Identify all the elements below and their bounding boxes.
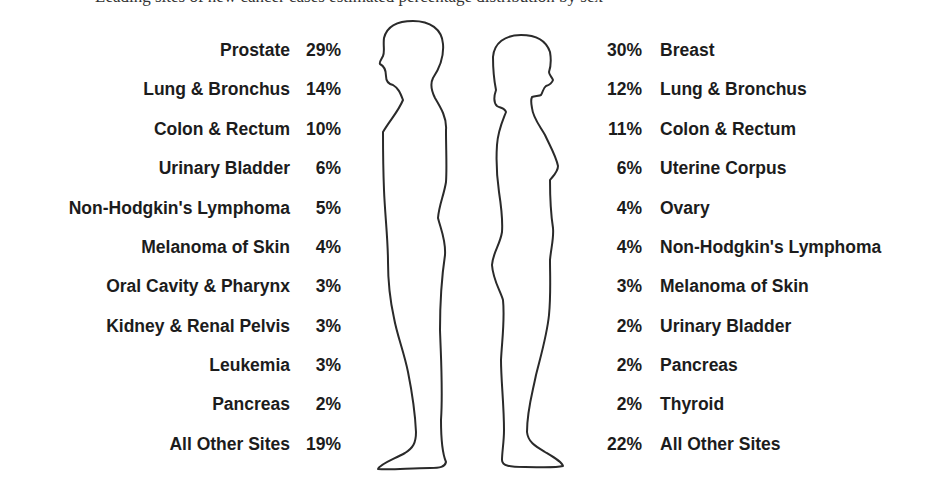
male-site-percent: 29%: [291, 38, 341, 62]
female-site-percent: 2%: [590, 353, 642, 377]
male-site-label: Kidney & Renal Pelvis: [0, 314, 290, 338]
female-site-label: Colon & Rectum: [660, 117, 948, 141]
female-site-label: Ovary: [660, 196, 948, 220]
female-site-label: Uterine Corpus: [660, 156, 948, 180]
male-site-label: Lung & Bronchus: [0, 77, 290, 101]
female-site-label: Urinary Bladder: [660, 314, 948, 338]
female-site-percent: 6%: [590, 156, 642, 180]
male-site-percent: 5%: [291, 196, 341, 220]
female-site-percent: 3%: [590, 274, 642, 298]
female-site-label: Pancreas: [660, 353, 948, 377]
female-site-percent: 2%: [590, 314, 642, 338]
female-site-percent: 2%: [590, 392, 642, 416]
male-site-label: Urinary Bladder: [0, 156, 290, 180]
female-site-percent: 22%: [590, 432, 642, 456]
male-silhouette-icon: [378, 21, 446, 469]
male-site-label: Pancreas: [0, 392, 290, 416]
male-site-label: All Other Sites: [0, 432, 290, 456]
male-site-percent: 2%: [291, 392, 341, 416]
male-site-percent: 3%: [291, 314, 341, 338]
female-site-label: All Other Sites: [660, 432, 948, 456]
female-site-percent: 4%: [590, 235, 642, 259]
male-site-label: Prostate: [0, 38, 290, 62]
female-site-percent: 12%: [590, 77, 642, 101]
female-site-percent: 4%: [590, 196, 642, 220]
female-silhouette-icon: [492, 35, 563, 467]
male-site-percent: 6%: [291, 156, 341, 180]
female-site-percent: 30%: [590, 38, 642, 62]
male-site-label: Non-Hodgkin's Lymphoma: [0, 196, 290, 220]
female-site-label: Melanoma of Skin: [660, 274, 948, 298]
male-site-percent: 3%: [291, 274, 341, 298]
male-site-percent: 19%: [291, 432, 341, 456]
female-site-label: Lung & Bronchus: [660, 77, 948, 101]
male-site-percent: 10%: [291, 117, 341, 141]
male-site-percent: 14%: [291, 77, 341, 101]
male-site-label: Colon & Rectum: [0, 117, 290, 141]
male-site-percent: 3%: [291, 353, 341, 377]
male-site-percent: 4%: [291, 235, 341, 259]
male-site-label: Melanoma of Skin: [0, 235, 290, 259]
female-site-label: Thyroid: [660, 392, 948, 416]
female-site-percent: 11%: [590, 117, 642, 141]
male-site-label: Oral Cavity & Pharynx: [0, 274, 290, 298]
female-site-label: Breast: [660, 38, 948, 62]
female-site-label: Non-Hodgkin's Lymphoma: [660, 235, 948, 259]
male-site-label: Leukemia: [0, 353, 290, 377]
